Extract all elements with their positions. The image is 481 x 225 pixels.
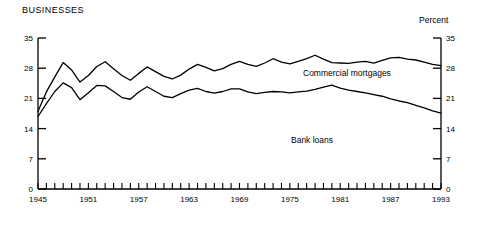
x-axis-ticks: [38, 183, 441, 189]
y-tick-label-left: 7: [29, 155, 34, 164]
y-tick-label-left: 21: [24, 94, 33, 103]
y-tick-label-left: 14: [24, 125, 33, 134]
x-tick-label: 1957: [130, 195, 148, 204]
y-tick-label-right: 0: [446, 185, 451, 194]
y-axis-ticks-right: [433, 38, 441, 189]
y-tick-label-right: 7: [446, 155, 451, 164]
x-tick-label: 1951: [79, 195, 97, 204]
y-tick-label-right: 35: [446, 34, 455, 43]
series-line-bank-loans: [38, 83, 441, 117]
x-tick-label: 1975: [281, 195, 299, 204]
x-axis-labels: 194519511957196319691975198119871993: [29, 195, 450, 204]
x-tick-label: 1969: [231, 195, 249, 204]
x-tick-label: 1987: [382, 195, 400, 204]
x-tick-label: 1981: [331, 195, 349, 204]
y-tick-label-left: 35: [24, 34, 33, 43]
x-tick-label: 1945: [29, 195, 47, 204]
y-axis-labels-left: 0714212835: [24, 34, 33, 194]
y-axis-labels-right: 0714212835: [446, 34, 455, 194]
y-tick-label-right: 21: [446, 94, 455, 103]
series-line-commercial-mortgages: [38, 55, 441, 111]
y-tick-label-right: 28: [446, 64, 455, 73]
x-tick-label: 1963: [180, 195, 198, 204]
y-tick-label-left: 28: [24, 64, 33, 73]
plot-area: 0714212835 0714212835 194519511957196319…: [0, 0, 481, 225]
y-tick-label-left: 0: [29, 185, 34, 194]
series-lines: [38, 55, 441, 116]
chart-container: BUSINESSES Percent Commercial mortgages …: [0, 0, 481, 225]
x-tick-label: 1993: [432, 195, 450, 204]
y-tick-label-right: 14: [446, 125, 455, 134]
